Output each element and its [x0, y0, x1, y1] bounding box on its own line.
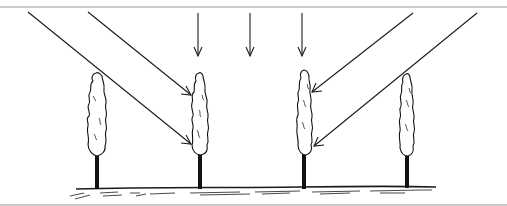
- tree-3: [297, 70, 313, 189]
- arrow-ray-right-upper: [312, 13, 413, 92]
- arrow-ray-right-lower: [314, 13, 477, 146]
- diagram-canvas: [0, 0, 507, 206]
- sunlight-trees-diagram: [0, 0, 507, 206]
- tree-crown: [399, 74, 414, 156]
- tree-2: [191, 73, 208, 189]
- tree-4: [399, 74, 414, 188]
- tree-1: [87, 73, 106, 189]
- tree-crown: [297, 70, 313, 155]
- tree-trunk: [302, 150, 306, 189]
- ground-line: [70, 186, 436, 199]
- arrow-ray-vertical-2: [246, 13, 254, 56]
- tree-trunk: [198, 150, 202, 189]
- sun-rays-vertical: [194, 13, 306, 56]
- tree-crown: [87, 73, 106, 156]
- sun-rays-right-diagonal: [312, 13, 477, 146]
- arrow-ray-vertical-1: [194, 13, 202, 56]
- arrow-ray-left-lower: [28, 12, 191, 144]
- sun-rays-left-diagonal: [28, 12, 191, 144]
- arrow-ray-vertical-3: [298, 13, 306, 56]
